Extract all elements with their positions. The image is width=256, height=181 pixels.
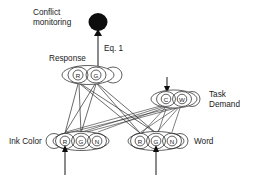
edge-word-g-to-response-g: [98, 84, 156, 133]
task-demand-layer-boundary: [151, 90, 197, 108]
node-inkcolor-r-label: R: [63, 138, 68, 145]
conflict-monitor-node: [89, 13, 108, 31]
edge-word-g-to-response-r: [81, 84, 156, 133]
node-inkcolor-g-label: G: [79, 138, 84, 145]
layer-task-demand: C W: [151, 77, 200, 108]
layer-response: R G: [62, 66, 122, 85]
node-taskdemand-c-label: C: [164, 96, 169, 103]
layer-ink-color: R G N: [46, 132, 109, 176]
ink-color-layer-label: Ink Color: [9, 137, 42, 146]
edge-inkcolor-g-to-response-r: [79, 84, 81, 133]
node-word-r-label: R: [138, 138, 143, 145]
conflict-monitoring-label-line1: Conflict: [33, 8, 61, 17]
conflict-monitor-group: [89, 13, 108, 66]
task-demand-label-line2: Demand: [209, 100, 240, 109]
conflict-monitoring-diagram: R G C W R G N: [0, 0, 256, 181]
node-response-g-label: G: [94, 72, 99, 79]
diagram-canvas: R G C W R G N: [0, 0, 256, 181]
node-taskdemand-w-label: W: [179, 96, 185, 103]
response-layer-label: Response: [49, 54, 86, 63]
node-word-g-label: G: [154, 138, 159, 145]
edge-taskdemand-c-to-inkcolor-n: [98, 107, 166, 132]
node-response-r-label: R: [76, 72, 81, 79]
word-layer-label: Word: [194, 137, 214, 146]
edge-inkcolor-r-to-response-r: [65, 84, 78, 133]
layer-word: R G N: [128, 132, 188, 176]
node-inkcolor-n-label: N: [95, 138, 99, 145]
equation-label: Eq. 1: [104, 44, 124, 53]
node-word-n-label: N: [170, 138, 174, 145]
edge-taskdemand-c-to-inkcolor-g: [82, 106, 165, 132]
conflict-monitoring-label-line2: monitoring: [33, 18, 72, 27]
task-demand-label-line1: Task: [209, 90, 227, 99]
connections-taskdemand-to-inputs: [66, 105, 181, 133]
